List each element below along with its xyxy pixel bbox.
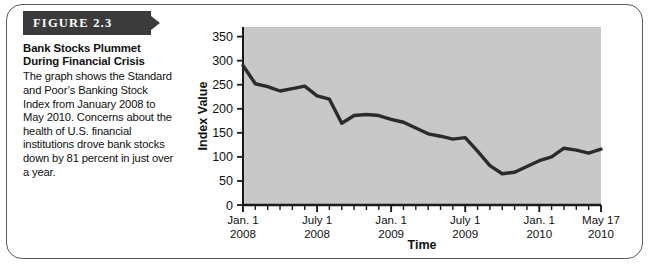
y-axis-title: Index Value [196,82,210,151]
x-axis-tick-label: Jan. 1 [227,213,259,226]
y-axis-tick-label: 50 [219,174,233,188]
x-axis-tick-label: Jan. 1 [375,213,407,226]
y-axis-tick-label: 150 [212,126,233,140]
x-axis-tick-label: 2008 [230,227,256,240]
y-axis-tick-label: 250 [212,78,233,92]
y-axis-tick-label: 0 [226,199,233,213]
x-axis-tick-label: July 1 [450,213,480,226]
figure-number-banner: FIGURE 2.3 [23,11,151,35]
x-axis-title: Time [408,238,437,252]
figure-description: The graph shows the Standard and Poor’s … [23,70,175,179]
x-axis-tick-label: 2008 [304,227,330,240]
x-axis-tick-label: 2010 [588,227,614,240]
x-axis-tick-label: 2010 [526,227,552,240]
line-chart: 050100150200250300350 Jan. 12008July 120… [191,11,639,256]
x-axis-tick-label: Jan. 1 [523,213,555,226]
y-axis-tick-label: 300 [212,54,233,68]
plot-background [243,27,601,205]
x-axis-tick-label: 2009 [378,227,404,240]
chart-container: 050100150200250300350 Jan. 12008July 120… [191,11,639,256]
figure-title: Bank Stocks Plummet During Financial Cri… [23,42,173,68]
figure-caption-column: FIGURE 2.3 Bank Stocks Plummet During Fi… [23,11,185,251]
figure-number-label: FIGURE 2.3 [33,16,112,31]
y-axis-tick-label: 350 [212,30,233,44]
x-axis-tick-labels: Jan. 12008July 12008Jan. 12009July 12009… [227,213,620,240]
y-axis-tick-label: 200 [212,102,233,116]
banner-arrow-icon [151,16,160,30]
y-axis-tick-labels: 050100150200250300350 [212,30,233,212]
x-axis-tick-label: 2009 [452,227,478,240]
x-axis-tick-label: May 17 [582,213,620,226]
figure-card: FIGURE 2.3 Bank Stocks Plummet During Fi… [6,4,643,259]
y-axis-tick-label: 100 [212,150,233,164]
x-axis-tick-label: July 1 [302,213,332,226]
